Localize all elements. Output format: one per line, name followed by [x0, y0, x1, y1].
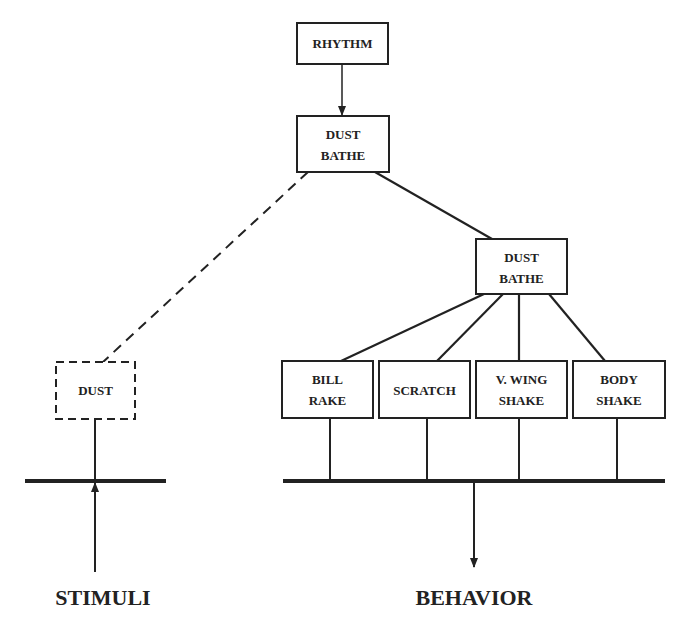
node-v-wing-shake-line1: V. WING: [496, 372, 548, 387]
node-body-shake: BODY SHAKE: [573, 361, 665, 418]
edge-to-scratch: [437, 294, 503, 361]
node-dust-label: DUST: [78, 383, 113, 398]
dust-bathing-diagram: RHYTHM DUST BATHE DUST BATHE DUST BILL R…: [0, 0, 681, 623]
edge-to-bill-rake: [341, 294, 484, 361]
node-dust-bathe-top: DUST BATHE: [297, 116, 389, 172]
node-v-wing-shake: V. WING SHAKE: [476, 361, 567, 418]
node-body-shake-line1: BODY: [600, 372, 638, 387]
node-dust-bathe-mid-line1: DUST: [504, 250, 539, 265]
node-bill-rake: BILL RAKE: [282, 361, 373, 418]
node-dust-bathe-mid-line2: BATHE: [499, 271, 544, 286]
node-dust-bathe-top-line1: DUST: [326, 127, 361, 142]
node-bill-rake-line2: RAKE: [309, 393, 347, 408]
node-v-wing-shake-line2: SHAKE: [499, 393, 545, 408]
behavior-label: BEHAVIOR: [416, 585, 534, 610]
edge-dust-bathe-to-dust-dashed: [103, 172, 308, 362]
node-dust: DUST: [56, 362, 135, 419]
node-rhythm: RHYTHM: [297, 23, 388, 64]
node-scratch-label: SCRATCH: [393, 383, 456, 398]
node-rhythm-label: RHYTHM: [313, 36, 373, 51]
stimuli-label: STIMULI: [55, 585, 150, 610]
node-body-shake-line2: SHAKE: [596, 393, 642, 408]
node-bill-rake-line1: BILL: [312, 372, 343, 387]
node-dust-bathe-mid: DUST BATHE: [476, 239, 567, 294]
node-dust-bathe-top-line2: BATHE: [321, 148, 366, 163]
edge-to-body-shake: [549, 294, 605, 361]
node-scratch: SCRATCH: [379, 361, 470, 418]
edge-dust-bathe-to-dust-bathe: [375, 172, 492, 239]
